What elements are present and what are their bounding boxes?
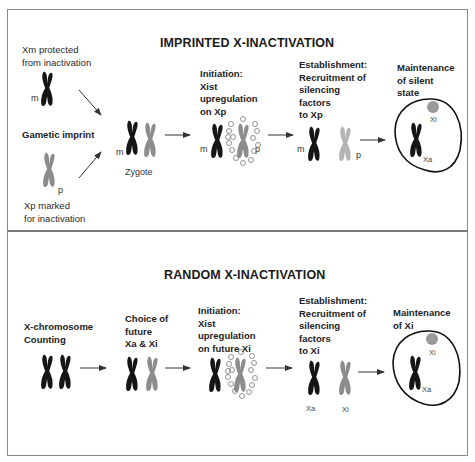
arrow-icon xyxy=(79,152,101,178)
future-xa-chromosome xyxy=(209,358,221,392)
xi-body xyxy=(427,101,439,113)
m-chromosome xyxy=(126,121,138,155)
p-chromosome xyxy=(144,123,156,157)
future-xa-chromosome xyxy=(126,357,138,391)
future-xi-chromosome xyxy=(146,357,158,391)
xa-chromosome xyxy=(409,356,421,390)
xp-chromosome xyxy=(43,153,55,187)
m-chromosome xyxy=(211,124,223,158)
x-chromosome xyxy=(41,355,53,389)
xm-chromosome xyxy=(41,72,53,106)
xi-chromosome xyxy=(339,361,351,395)
xa-chromosome xyxy=(308,361,320,395)
nucleus-outline xyxy=(393,331,460,405)
xa-chromosome xyxy=(410,123,422,157)
xist-coated-chromosome xyxy=(234,358,246,392)
arrow-icon xyxy=(79,90,101,115)
m-chromosome xyxy=(308,127,320,161)
diagram-graphics xyxy=(0,0,475,462)
silenced-p-chromosome xyxy=(339,127,351,161)
xist-coated-chromosome xyxy=(237,124,249,158)
xi-body xyxy=(426,333,438,345)
x-chromosome xyxy=(59,355,71,389)
